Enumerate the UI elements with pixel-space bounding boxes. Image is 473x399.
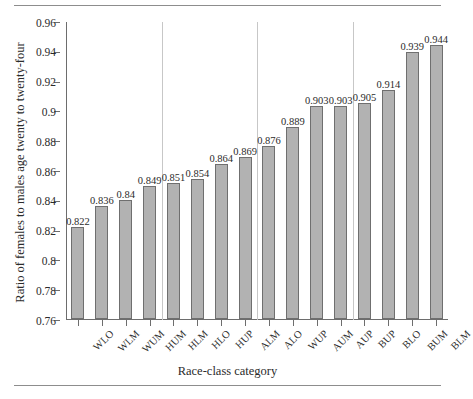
bar-value-label: 0.905 — [353, 92, 377, 103]
bar-value-label: 0.939 — [400, 41, 424, 52]
x-axis-title: Race-class category — [0, 364, 455, 379]
x-tick-mark — [269, 320, 270, 326]
x-category-label-hlm: HLM — [186, 328, 210, 352]
y-tick: 0.94 — [60, 52, 66, 53]
y-tick-label: 0.94 — [36, 46, 56, 58]
bar: 0.854 — [191, 179, 204, 319]
bar: 0.876 — [262, 146, 275, 319]
x-tick-mark — [126, 320, 127, 326]
y-tick: 0.76 — [60, 320, 66, 321]
bar-value-label: 0.849 — [138, 175, 162, 186]
bar: 0.905 — [358, 103, 371, 319]
group-separator-line — [162, 22, 163, 320]
x-category-label-blm: BLM — [449, 328, 473, 352]
bar-value-label: 0.944 — [424, 34, 448, 45]
bar-value-label: 0.869 — [233, 146, 257, 157]
bar-value-label: 0.836 — [90, 195, 114, 206]
group-separator-line — [257, 22, 258, 320]
x-category-label-aum: AUM — [330, 328, 355, 353]
x-tick-mark — [412, 320, 413, 326]
bar: 0.849 — [143, 186, 156, 319]
x-tick-mark — [102, 320, 103, 326]
bar: 0.869 — [239, 157, 252, 319]
y-tick: 0.96 — [60, 22, 66, 23]
x-category-label-hlo: HLO — [210, 328, 233, 351]
top-divider-rule — [14, 5, 441, 6]
bar-value-label: 0.914 — [377, 79, 401, 90]
x-tick-mark — [173, 320, 174, 326]
y-tick-label: 0.78 — [36, 285, 56, 297]
y-tick-label: 0.76 — [36, 315, 56, 327]
bar: 0.864 — [215, 164, 228, 319]
bar: 0.889 — [286, 127, 299, 319]
bar: 0.84 — [119, 200, 132, 319]
x-category-label-bum: BUM — [425, 328, 450, 353]
bar-value-label: 0.876 — [257, 135, 281, 146]
bar: 0.939 — [406, 52, 419, 319]
y-axis-title: Ratio of females to males age twenty to … — [13, 23, 28, 323]
group-separator-line — [353, 22, 354, 320]
x-tick-mark — [197, 320, 198, 326]
bar-value-label: 0.854 — [186, 168, 210, 179]
y-tick-label: 0.86 — [36, 166, 56, 178]
bar: 0.851 — [167, 183, 180, 319]
y-tick: 0.78 — [60, 290, 66, 291]
x-category-label-blo: BLO — [400, 328, 423, 351]
x-tick-mark — [293, 320, 294, 326]
x-tick-mark — [388, 320, 389, 326]
y-tick: 0.88 — [60, 141, 66, 142]
y-tick: 0.92 — [60, 82, 66, 83]
x-category-label-wum: WUM — [140, 328, 167, 355]
y-axis-line — [66, 22, 67, 320]
x-tick-mark — [341, 320, 342, 326]
bar-value-label: 0.864 — [209, 153, 233, 164]
x-category-label-hum: HUM — [163, 328, 188, 353]
bar-value-label: 0.822 — [66, 216, 90, 227]
x-tick-mark — [150, 320, 151, 326]
x-category-label-hup: HUP — [233, 328, 256, 351]
y-tick: 0.84 — [60, 201, 66, 202]
bar: 0.836 — [95, 206, 108, 319]
bar: 0.944 — [430, 45, 443, 319]
x-category-label-wlo: WLO — [91, 328, 116, 353]
x-tick-mark — [436, 320, 437, 326]
x-tick-mark — [364, 320, 365, 326]
y-tick-label: 0.84 — [36, 195, 56, 207]
y-tick: 0.8 — [60, 260, 66, 261]
bar-value-label: 0.84 — [117, 189, 135, 200]
bar-value-label: 0.903 — [305, 95, 329, 106]
bottom-divider-rule — [14, 385, 441, 386]
bar-chart-plot-area: 0.960.940.920.90.880.860.840.820.80.780.… — [66, 22, 448, 320]
x-tick-mark — [317, 320, 318, 326]
bar: 0.822 — [71, 227, 84, 319]
bar-value-label: 0.903 — [329, 95, 353, 106]
y-tick: 0.9 — [60, 111, 66, 112]
y-tick: 0.86 — [60, 171, 66, 172]
bar-value-label: 0.851 — [162, 172, 186, 183]
y-tick-label: 0.96 — [36, 17, 56, 29]
x-category-label-wup: WUP — [306, 328, 330, 352]
bar: 0.903 — [334, 106, 347, 319]
bar: 0.903 — [310, 106, 323, 319]
y-tick-label: 0.8 — [42, 255, 56, 267]
x-category-label-wlm: WLM — [115, 328, 141, 354]
x-category-label-alm: ALM — [258, 328, 282, 352]
x-category-label-bup: BUP — [376, 328, 398, 350]
x-category-label-alo: ALO — [281, 328, 304, 351]
bar-value-label: 0.889 — [281, 116, 305, 127]
x-tick-mark — [245, 320, 246, 326]
x-category-label-aup: AUP — [353, 328, 376, 351]
y-tick: 0.82 — [60, 231, 66, 232]
y-tick-label: 0.88 — [36, 136, 56, 148]
x-tick-mark — [221, 320, 222, 326]
y-tick-label: 0.9 — [42, 106, 56, 118]
bar: 0.914 — [382, 90, 395, 319]
y-tick-label: 0.82 — [36, 225, 56, 237]
x-tick-mark — [78, 320, 79, 326]
y-tick-label: 0.92 — [36, 76, 56, 88]
